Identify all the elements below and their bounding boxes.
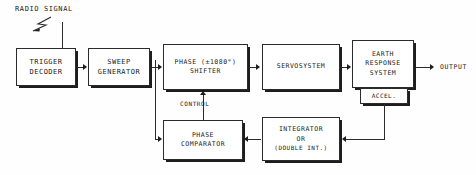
trigger-decoder-line1: TRIGGER <box>29 57 62 67</box>
arrow-output <box>430 64 434 70</box>
link-control-line <box>203 95 204 121</box>
phase-comparator-line2: COMPARATOR <box>181 140 225 149</box>
arrow-decoder-sweep <box>83 64 87 70</box>
earth-response-line1: EARTH <box>372 50 394 59</box>
arrow-sweep-comparator <box>158 136 162 142</box>
arrow-sweep-phaseshifter <box>158 64 162 70</box>
link-accel-down <box>384 104 385 139</box>
integrator-line2: OR <box>297 135 306 144</box>
phase-shifter-line2: SHIFTER <box>190 67 221 76</box>
link-integrator-comparator <box>248 139 261 140</box>
block-phase-shifter: PHASE (±1080°) SHIFTER <box>163 44 248 90</box>
trigger-decoder-line2: DECODER <box>29 67 62 77</box>
block-diagram: RADIO SIGNAL TRIGGER DECODER SWEEP GENER… <box>0 0 476 175</box>
arrow-accel-integrator <box>342 136 346 142</box>
sweep-generator-line2: GENERATOR <box>98 67 140 77</box>
block-accelerometer: ACCEL. <box>360 88 408 104</box>
arrow-servo-earth <box>347 64 351 70</box>
block-earth-response-system: EARTH RESPONSE SYSTEM <box>352 40 414 88</box>
phase-comparator-line1: PHASE <box>192 131 214 140</box>
block-trigger-decoder: TRIGGER DECODER <box>16 48 76 86</box>
arrow-phaseshifter-servo <box>256 64 260 70</box>
servosystem-label: SERVOSYSTEM <box>277 62 326 71</box>
block-integrator: INTEGRATOR OR (DOUBLE INT.) <box>262 117 340 161</box>
arrow-control-into-shifter <box>200 91 206 95</box>
sweep-generator-line1: SWEEP <box>107 57 131 67</box>
accelerometer-label: ACCEL. <box>372 92 397 101</box>
control-label: CONTROL <box>180 100 210 107</box>
integrator-line1: INTEGRATOR <box>279 125 323 134</box>
output-text: OUTPUT <box>440 63 467 71</box>
radio-wave-icon <box>18 15 64 35</box>
link-sweep-branch-down <box>155 60 156 139</box>
antenna-lead <box>62 22 63 48</box>
radio-signal-label: RADIO SIGNAL <box>15 5 73 13</box>
integrator-line3: (DOUBLE INT.) <box>274 144 327 153</box>
block-phase-comparator: PHASE COMPARATOR <box>163 120 243 160</box>
block-servosystem: SERVOSYSTEM <box>262 44 340 90</box>
block-sweep-generator: SWEEP GENERATOR <box>88 48 150 86</box>
earth-response-line3: SYSTEM <box>370 69 396 78</box>
earth-response-line2: RESPONSE <box>365 59 400 68</box>
phase-shifter-line1: PHASE (±1080°) <box>175 58 237 67</box>
arrow-integrator-comparator <box>244 136 248 142</box>
link-accel-to-integrator <box>346 139 385 140</box>
